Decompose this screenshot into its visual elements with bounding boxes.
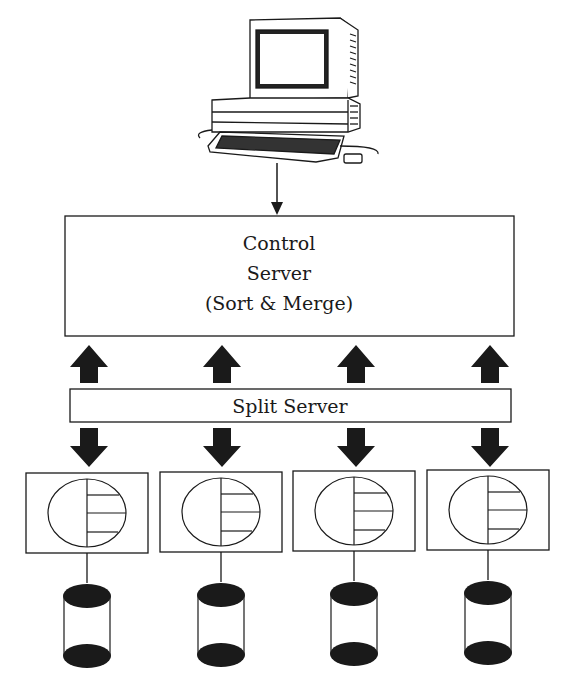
split-server-box: Split Server xyxy=(70,389,511,422)
disk-cylinder-icon xyxy=(330,582,378,666)
control-server-line-1: Control xyxy=(243,232,315,254)
up-arrow-icon xyxy=(70,345,108,383)
down-arrow-icon xyxy=(337,428,375,467)
disk-cylinder-icon xyxy=(464,581,512,665)
terminal-to-control-arrow xyxy=(271,163,283,215)
down-arrow-icon xyxy=(203,428,241,467)
processing-nodes xyxy=(26,470,549,668)
architecture-diagram: Control Server (Sort & Merge) Split Serv… xyxy=(0,0,568,684)
control-server-line-2: Server xyxy=(247,262,312,284)
computer-terminal-icon xyxy=(199,18,379,163)
control-server-box: Control Server (Sort & Merge) xyxy=(65,216,514,336)
up-arrows xyxy=(70,345,509,383)
down-arrows xyxy=(70,428,509,467)
disk-cylinder-icon xyxy=(197,583,245,667)
split-server-label: Split Server xyxy=(232,395,348,417)
down-arrow-icon xyxy=(471,428,509,467)
up-arrow-icon xyxy=(203,345,241,383)
processing-node xyxy=(427,470,549,665)
disk-cylinder-icon xyxy=(63,584,111,668)
down-arrow-icon xyxy=(70,428,108,467)
processing-node xyxy=(293,471,415,666)
processing-node xyxy=(160,472,282,667)
up-arrow-icon xyxy=(337,345,375,383)
control-server-line-3: (Sort & Merge) xyxy=(205,292,353,314)
up-arrow-icon xyxy=(471,345,509,383)
processing-node xyxy=(26,473,148,668)
